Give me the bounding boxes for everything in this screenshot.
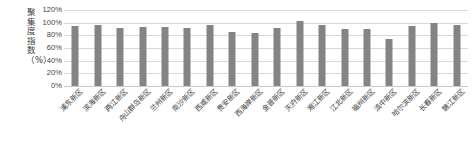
bar-slot	[176, 10, 198, 86]
bar	[161, 27, 168, 86]
bar-slot	[288, 10, 310, 86]
x-tick-label: 浦东新区	[59, 88, 84, 113]
x-tick-label: 兰州新区	[149, 88, 174, 113]
x-tick-label: 天府新区	[284, 88, 309, 113]
x-axis-tick-labels: 浦东新区滨海新区两江新区舟山群岛新区兰州新区南沙新区西咸新区贵安新区西海岸新区金…	[64, 88, 468, 148]
clustering-index-bar-chart: 聚集度指数（%） 120%100%80%60%40%20%0% 浦东新区滨海新区…	[0, 0, 473, 149]
bar	[319, 25, 326, 86]
x-tick-label: 金普新区	[261, 88, 286, 113]
bar-slot	[423, 10, 445, 86]
bar-slot	[446, 10, 468, 86]
y-tick-label: 120%	[43, 6, 62, 14]
bar	[386, 39, 393, 87]
bar	[341, 29, 348, 86]
bar	[139, 27, 146, 86]
bar	[363, 29, 370, 86]
bar	[206, 25, 213, 86]
x-tick-label: 南沙新区	[172, 88, 197, 113]
bar	[296, 21, 303, 86]
axis-baseline	[64, 86, 468, 87]
x-tick-label: 湘江新区	[306, 88, 331, 113]
x-tick-label: 西咸新区	[194, 88, 219, 113]
bar	[184, 28, 191, 86]
y-axis-tick-labels: 120%100%80%60%40%20%0%	[36, 10, 62, 86]
y-tick-label: 60%	[47, 44, 62, 52]
y-tick-label: 0%	[51, 82, 62, 90]
x-tick-label: 福州新区	[351, 88, 376, 113]
bar-slot	[86, 10, 108, 86]
x-tick-label: 滨海新区	[82, 88, 107, 113]
y-tick-label: 40%	[47, 57, 62, 65]
bar-slot	[266, 10, 288, 86]
x-tick-label: 长春新区	[419, 88, 444, 113]
bars-layer	[64, 10, 468, 86]
bar-slot	[154, 10, 176, 86]
bar-slot	[109, 10, 131, 86]
bar-slot	[378, 10, 400, 86]
bar	[274, 28, 281, 86]
bar-slot	[131, 10, 153, 86]
bar	[72, 26, 79, 86]
bar-slot	[221, 10, 243, 86]
y-tick-label: 100%	[43, 19, 62, 27]
x-tick-label: 江北新区	[329, 88, 354, 113]
bar	[408, 26, 415, 86]
y-tick-label: 20%	[47, 69, 62, 77]
bar	[94, 25, 101, 86]
x-tick-label: 赣江新区	[441, 88, 466, 113]
bar	[117, 28, 124, 86]
plot-area	[64, 10, 468, 86]
bar-slot	[356, 10, 378, 86]
bar	[251, 33, 258, 86]
bar-slot	[244, 10, 266, 86]
bar-slot	[199, 10, 221, 86]
bar-slot	[333, 10, 355, 86]
bar	[229, 32, 236, 86]
bar	[453, 25, 460, 86]
y-tick-label: 80%	[47, 31, 62, 39]
bar-slot	[64, 10, 86, 86]
bar	[431, 23, 438, 86]
bar-slot	[311, 10, 333, 86]
bar-slot	[401, 10, 423, 86]
